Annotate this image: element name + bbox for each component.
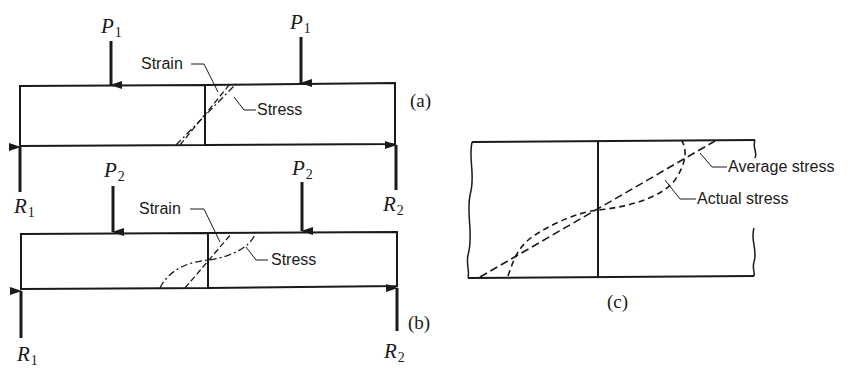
panel-a-caption: (a) [410,91,431,110]
panel-b-stress-leader [246,247,268,260]
panel-c-average-stress-leader [700,153,727,167]
panel-a-stress-label: Stress [257,102,302,118]
panel-c-actual-stress-leader [665,180,696,199]
panel-b-caption: (b) [408,313,430,332]
panel-c-average-stress-label: Average stress [728,159,834,175]
panel-a-stress-leader [234,97,256,110]
panel-c-actual-stress-curve [508,141,685,276]
panel-b-reaction-label-left: R1 [17,344,38,368]
panel-b-strain-label: Strain [139,201,181,217]
panel-b-strain-leader [190,209,220,242]
panel-b-reaction-label-right: R2 [384,341,405,365]
panel-a-strain-label: Strain [141,56,183,72]
panel-a-reaction-label-left: R1 [14,196,35,220]
panel-a-beam [20,83,395,146]
panel-a-load-label-left: P1 [101,16,122,40]
panel-c-caption: (c) [607,292,628,311]
panel-b-stress-label: Stress [271,252,316,268]
panel-a-load-label-right: P1 [290,12,311,36]
panel-c-actual-stress-label: Actual stress [697,191,789,207]
panel-a-reaction-label-right: R2 [383,194,404,218]
panel-b-load-label-left: P2 [104,160,125,184]
panel-b-load-label-right: P2 [292,158,313,182]
